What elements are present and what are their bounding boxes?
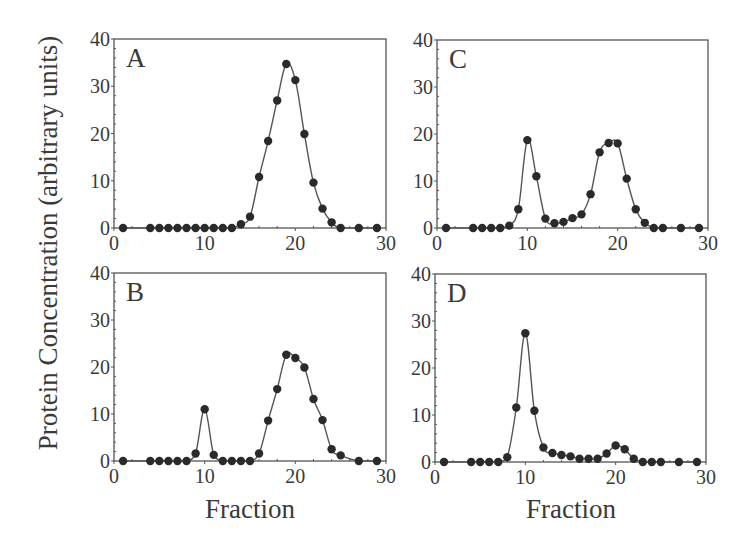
data-point [336,451,344,459]
data-point [657,458,665,466]
y-tick-label: 40 [90,28,110,50]
data-point [623,174,631,182]
data-point [575,455,583,463]
panel-label: C [449,44,467,74]
y-tick-label: 40 [411,263,431,285]
data-point [467,458,475,466]
data-point [228,224,236,232]
panel-label: B [126,277,144,307]
data-point [200,405,208,413]
axes-frame [435,274,706,462]
data-point [282,351,290,359]
data-point [476,458,484,466]
data-point [641,219,649,227]
data-point [146,224,154,232]
data-point [309,178,317,186]
y-tick-label: 40 [413,29,433,51]
data-point [677,224,685,232]
x-axis-title-right: Fraction [526,494,616,525]
data-point [164,224,172,232]
data-point [539,443,547,451]
data-point [119,224,127,232]
data-point [309,395,317,403]
data-point [318,416,326,424]
data-point [255,173,263,181]
data-point [586,190,594,198]
data-point [191,449,199,457]
data-point [512,403,520,411]
series-line [123,63,377,228]
y-tick-label: 30 [411,310,431,332]
y-tick-label: 40 [90,262,110,284]
data-point [291,354,299,362]
data-point [273,96,281,104]
axes-frame [114,273,386,461]
data-point [469,224,477,232]
data-point [523,136,531,144]
y-tick-label: 10 [90,403,110,425]
x-tick-label: 30 [696,466,716,488]
x-tick-label: 20 [285,465,305,487]
data-point [514,205,522,213]
data-point [530,407,538,415]
data-point [548,449,556,457]
data-point [695,224,703,232]
data-point [496,224,504,232]
x-tick-label: 0 [432,232,442,254]
data-point [119,457,127,465]
data-point [494,458,502,466]
data-point [630,455,638,463]
data-point [577,210,585,218]
x-tick-label: 0 [430,466,440,488]
data-point [442,224,450,232]
data-point [246,212,254,220]
data-point [300,363,308,371]
data-point [604,139,612,147]
data-point [559,218,567,226]
data-point [639,458,647,466]
x-tick-label: 10 [195,232,215,254]
x-tick-label: 10 [515,466,535,488]
y-tick-label: 20 [411,357,431,379]
data-point [327,445,335,453]
data-point [237,220,245,228]
data-point [191,224,199,232]
x-tick-label: 20 [606,466,626,488]
data-point [503,453,511,461]
panel-label: A [126,43,146,73]
data-point [595,148,603,156]
series-line [444,333,697,462]
data-point [373,224,381,232]
data-point [568,214,576,222]
axes-frame [437,40,708,228]
data-point [675,458,683,466]
y-tick-label: 20 [413,123,433,145]
data-point [693,458,701,466]
y-tick-label: 30 [90,75,110,97]
data-point [273,385,281,393]
x-tick-label: 0 [109,232,119,254]
data-point [164,457,172,465]
data-point [648,458,656,466]
data-point [593,455,601,463]
data-point [146,457,154,465]
data-point [373,457,381,465]
data-point [264,137,272,145]
panel-c: 0102030400102030C [413,29,718,254]
panel-b: 0102030400102030B [90,262,396,487]
panel-a: 0102030400102030A [90,28,396,254]
data-point [632,205,640,213]
data-point [650,224,658,232]
data-point [478,224,486,232]
data-point [219,224,227,232]
data-point [602,449,610,457]
data-point [584,455,592,463]
data-point [355,224,363,232]
data-point [485,458,493,466]
data-point [532,172,540,180]
data-point [200,224,208,232]
y-tick-label: 10 [413,170,433,192]
data-point [336,224,344,232]
data-point [237,457,245,465]
data-point [611,441,619,449]
